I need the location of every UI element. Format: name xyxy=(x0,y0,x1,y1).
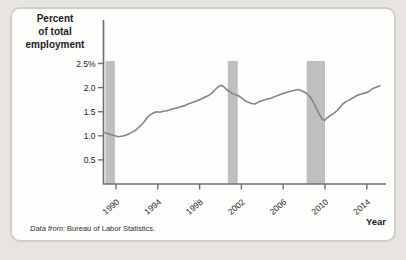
x-tick-label: 2010 xyxy=(309,197,330,217)
x-tick-label: 2002 xyxy=(226,197,247,217)
x-tick-label: 2014 xyxy=(351,197,372,217)
data-line xyxy=(104,85,380,137)
y-tick-label: 0.5 xyxy=(84,155,96,165)
x-axis-title: Year xyxy=(336,216,386,227)
recession-band xyxy=(106,61,115,184)
recession-band xyxy=(228,61,238,184)
x-tick-label: 1990 xyxy=(100,197,121,217)
y-tick-label: 2.0 xyxy=(84,83,96,93)
x-tick-label: 1998 xyxy=(184,197,205,217)
x-tick-label: 1994 xyxy=(142,197,163,217)
axes xyxy=(104,20,387,184)
source-caption: Data from: Bureau of Labor Statistics. xyxy=(30,224,155,233)
recession-band xyxy=(307,61,325,184)
y-tick-label: 1.5 xyxy=(84,107,96,117)
source-caption-text: : Bureau of Labor Statistics. xyxy=(63,224,155,233)
y-tick-label: 2.5% xyxy=(76,59,96,69)
source-caption-prefix: Data from xyxy=(30,224,63,233)
y-tick-label: 1.0 xyxy=(84,131,96,141)
x-tick-label: 2006 xyxy=(268,197,289,217)
